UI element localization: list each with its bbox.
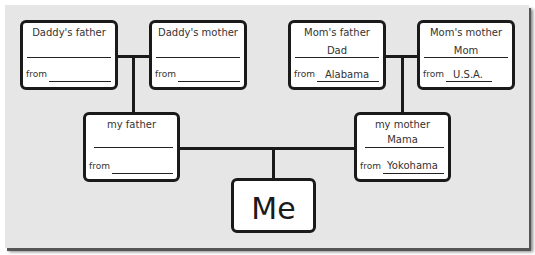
from-label: from: [360, 161, 381, 171]
name-line: [295, 57, 379, 58]
card-title: Mom's father: [291, 27, 383, 38]
name-line: [365, 147, 444, 148]
from-value: Alabama: [315, 69, 379, 80]
from-line: [178, 81, 240, 82]
connector-moms-parents-down: [401, 55, 404, 115]
from-line: [383, 173, 444, 174]
card-title: Daddy's father: [23, 27, 115, 38]
from-label: from: [26, 69, 47, 79]
from-line: [112, 173, 173, 174]
from-line: [317, 81, 379, 82]
card-my-mother: my mother Mama from Yokohama: [354, 112, 451, 182]
from-value: Yokohama: [381, 160, 444, 171]
card-daddys-mother: Daddy's mother from: [149, 20, 247, 90]
from-label: from: [423, 69, 444, 79]
connector-me: [272, 148, 275, 180]
me-label: Me: [234, 191, 313, 226]
name-value: Mom: [420, 45, 512, 56]
card-title: my mother: [357, 119, 448, 130]
card-me: Me: [231, 178, 316, 233]
name-line: [27, 57, 111, 58]
connector-daddys-parents-down: [132, 55, 135, 115]
from-line: [446, 81, 492, 82]
connector-parents: [178, 147, 356, 150]
from-label: from: [294, 69, 315, 79]
card-title: my father: [86, 119, 177, 130]
name-line: [94, 147, 173, 148]
from-line: [49, 81, 111, 82]
card-title: Daddy's mother: [152, 27, 244, 38]
from-label: from: [155, 69, 176, 79]
from-label: from: [89, 161, 110, 171]
card-title: Mom's mother: [420, 27, 512, 38]
card-moms-mother: Mom's mother Mom from U.S.A.: [417, 20, 515, 90]
from-value: U.S.A.: [444, 69, 492, 80]
name-value: Dad: [291, 45, 383, 56]
name-line: [424, 57, 508, 58]
name-value: Mama: [357, 134, 448, 145]
card-daddys-father: Daddy's father from: [20, 20, 118, 90]
card-my-father: my father from: [83, 112, 180, 182]
card-moms-father: Mom's father Dad from Alabama: [288, 20, 386, 90]
name-line: [156, 57, 240, 58]
